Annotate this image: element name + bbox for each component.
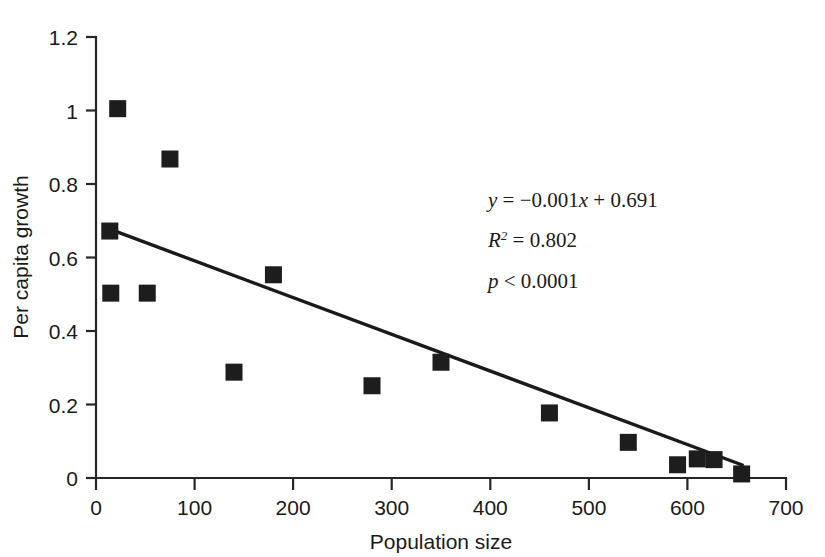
data-point-marker xyxy=(139,285,156,302)
data-point-marker xyxy=(620,434,637,451)
x-tick-label-300: 300 xyxy=(374,496,409,519)
y-tick-label-0.2: 0.2 xyxy=(49,394,78,417)
data-point-marker xyxy=(364,377,381,394)
y-axis-title: Per capita growth xyxy=(9,175,32,338)
annotation-equation: y = −0.001x + 0.691 xyxy=(486,188,658,212)
x-tick-label-600: 600 xyxy=(670,496,705,519)
y-tick-label-1.2: 1.2 xyxy=(49,26,78,49)
r-squared-value: = 0.802 xyxy=(507,228,577,252)
r-symbol: R xyxy=(487,228,501,252)
data-point-marker xyxy=(265,266,282,283)
x-axis-title: Population size xyxy=(370,530,512,553)
equation-mid: = −0.001 xyxy=(497,188,578,212)
y-tick-label-0.8: 0.8 xyxy=(49,173,78,196)
figure-background xyxy=(0,0,825,557)
y-tick-label-0: 0 xyxy=(66,467,78,490)
data-point-marker xyxy=(109,100,126,117)
data-point-marker xyxy=(433,354,450,371)
data-point-marker xyxy=(706,451,723,468)
data-point-marker xyxy=(101,223,118,240)
plot-canvas: 0 0.2 0.4 0.6 0.8 1 1.2 0 100 200 300 40… xyxy=(0,0,825,557)
annotation-p-value: p < 0.0001 xyxy=(486,269,579,293)
data-point-marker xyxy=(541,404,558,421)
p-value-text: < 0.0001 xyxy=(499,269,579,293)
x-tick-label-100: 100 xyxy=(177,496,212,519)
equation-y-symbol: y xyxy=(486,188,498,212)
x-tick-label-700: 700 xyxy=(768,496,803,519)
annotation-r-squared: R2 = 0.802 xyxy=(487,228,577,253)
y-tick-label-0.4: 0.4 xyxy=(49,320,79,343)
data-point-marker xyxy=(226,364,243,381)
equation-tail: + 0.691 xyxy=(588,188,658,212)
y-tick-label-1: 1 xyxy=(66,100,78,123)
scatter-plot-figure: 0 0.2 0.4 0.6 0.8 1 1.2 0 100 200 300 40… xyxy=(0,0,825,557)
x-tick-label-400: 400 xyxy=(473,496,508,519)
data-point-marker xyxy=(689,450,706,467)
data-point-marker xyxy=(669,456,686,473)
y-tick-label-0.6: 0.6 xyxy=(49,247,78,270)
x-tick-label-500: 500 xyxy=(571,496,606,519)
p-symbol: p xyxy=(486,269,499,293)
x-tick-label-0: 0 xyxy=(90,496,102,519)
data-point-marker xyxy=(161,151,178,168)
data-point-marker xyxy=(733,465,750,482)
data-point-marker xyxy=(102,285,119,302)
x-tick-label-200: 200 xyxy=(276,496,311,519)
